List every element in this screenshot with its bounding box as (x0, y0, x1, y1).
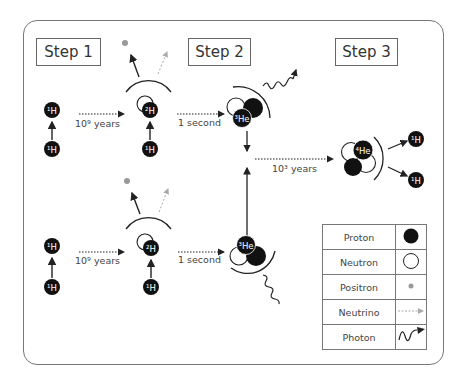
top-step1-time-label: 10⁹ years (75, 118, 120, 129)
step3-time-label: 10³ years (272, 163, 317, 174)
svg-text:¹H: ¹H (47, 242, 57, 252)
svg-text:¹H: ¹H (146, 283, 156, 293)
bottom-row-step1: ¹H ¹H (44, 238, 124, 295)
svg-text:¹H: ¹H (411, 176, 421, 186)
svg-text:³He: ³He (238, 241, 253, 251)
bottom-step1-time-label: 10⁹ years (75, 255, 120, 266)
proton-icon (344, 158, 362, 176)
top-row-deuterium: ²H ¹H (122, 40, 224, 157)
svg-text:²H: ²H (146, 244, 156, 254)
legend-row-photon: Photon (323, 325, 427, 350)
svg-text:²H: ²H (145, 106, 155, 116)
step3-helium4: ⁴He ¹H ¹H (255, 131, 424, 188)
svg-text:¹H: ¹H (145, 145, 155, 155)
svg-text:¹H: ¹H (47, 145, 57, 155)
top-row-helium3: ³He (227, 70, 296, 151)
proton-proton-chain-diagram: Step 1 Step 2 Step 3 ¹H ¹H ²H ¹H (0, 0, 468, 382)
svg-text:⁴He: ⁴He (355, 146, 370, 156)
bottom-row-deuterium: ²H ¹H (124, 178, 224, 295)
svg-text:³He: ³He (234, 114, 249, 124)
top-step2-time-label: 1 second (178, 117, 221, 128)
bottom-step2-time-label: 1 second (178, 254, 221, 265)
svg-text:¹H: ¹H (47, 283, 57, 293)
bottom-row-helium3: ³He (230, 168, 294, 310)
legend-table: Proton Neutron Positron Neutrino Photon (322, 224, 427, 350)
svg-text:¹H: ¹H (47, 106, 57, 116)
svg-text:¹H: ¹H (411, 135, 421, 145)
legend-row-neutron: Neutron (323, 250, 427, 275)
positron-icon (122, 40, 128, 46)
legend-row-positron: Positron (323, 275, 427, 300)
legend-row-neutrino: Neutrino (323, 300, 427, 325)
top-row-step1: ¹H ¹H (44, 102, 124, 157)
positron-icon (124, 178, 130, 184)
legend-row-proton: Proton (323, 225, 427, 250)
